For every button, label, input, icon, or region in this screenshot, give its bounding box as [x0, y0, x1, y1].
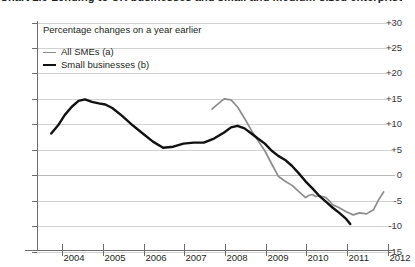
- x-axis-label: 2011: [349, 253, 389, 263]
- legend-swatch-icon: [43, 64, 56, 66]
- x-axis-label: 2009: [268, 253, 308, 263]
- x-axis-label: 2008: [227, 253, 267, 263]
- x-axis-label: 2006: [146, 253, 186, 263]
- y-axis-label: +10: [374, 119, 402, 129]
- gridline: [37, 226, 395, 227]
- x-axis-label: 2005: [105, 253, 145, 263]
- y-axis-label: +25: [374, 43, 402, 53]
- chart-legend: All SMEs (a) Small businesses (b): [43, 46, 149, 72]
- y-tick: [32, 252, 37, 253]
- x-tick: [388, 244, 389, 256]
- x-tick: [184, 244, 185, 256]
- gridline: [37, 201, 395, 202]
- figure-title: Chart 2.9 Lending to UK businesses and s…: [0, 0, 402, 3]
- line-all-smes: [212, 99, 384, 215]
- x-tick: [62, 244, 63, 256]
- x-tick: [347, 244, 348, 256]
- y-axis-label: -5: [374, 196, 402, 206]
- x-tick: [266, 244, 267, 256]
- legend-swatch-icon: [43, 52, 56, 53]
- legend-item-all-smes: All SMEs (a): [43, 46, 149, 58]
- line-small-businesses: [51, 99, 350, 224]
- gridline: [37, 73, 395, 74]
- x-axis-label: 2007: [186, 253, 226, 263]
- zero-gridline: [37, 175, 395, 176]
- x-tick: [144, 244, 145, 256]
- legend-label: Small businesses (b): [61, 60, 149, 70]
- y-axis-label: +30: [374, 18, 402, 28]
- gridline: [37, 150, 395, 151]
- legend-item-small-businesses: Small businesses (b): [43, 59, 149, 71]
- gridline: [37, 124, 395, 125]
- x-tick: [225, 244, 226, 256]
- y-axis-label: 0: [374, 170, 402, 180]
- y-axis-label: +15: [374, 94, 402, 104]
- y-axis-label: -10: [374, 221, 402, 231]
- panel-title: Percentage changes on a year earlier: [43, 24, 201, 35]
- x-axis-label: 2012: [390, 253, 415, 263]
- x-tick: [306, 244, 307, 256]
- y-axis-label: +5: [374, 145, 402, 155]
- x-axis-line: [25, 250, 395, 251]
- legend-label: All SMEs (a): [61, 47, 114, 57]
- x-axis-label: 2010: [308, 253, 348, 263]
- y-axis-label: +20: [374, 68, 402, 78]
- x-axis-label: 2004: [64, 253, 104, 263]
- y-axis-line: [37, 21, 38, 251]
- gridline: [37, 99, 395, 100]
- x-tick: [103, 244, 104, 256]
